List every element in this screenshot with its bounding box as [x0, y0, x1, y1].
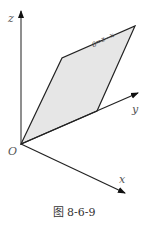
x-axis [21, 144, 125, 193]
y-axis-label: y [131, 103, 139, 116]
x-axis-label: x [119, 173, 126, 186]
z-axis-label: z [7, 12, 14, 25]
coordinate-diagram: x−z=0 z y x O 图 8-6-9 [0, 0, 147, 227]
origin-label: O [8, 145, 17, 158]
plane-x-minus-z [21, 26, 135, 144]
figure-caption: 图 8-6-9 [53, 206, 96, 219]
